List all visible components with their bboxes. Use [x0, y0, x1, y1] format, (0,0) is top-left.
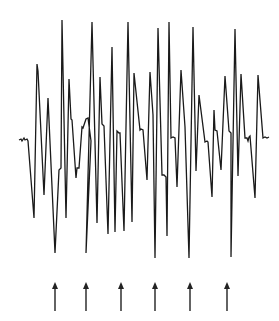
- marker-arrow-icon: [224, 282, 230, 311]
- arrow-head: [224, 282, 230, 289]
- waveform-trace: [19, 20, 269, 258]
- waveform-figure: [0, 0, 279, 321]
- arrow-head: [52, 282, 58, 289]
- marker-arrow-icon: [187, 282, 193, 311]
- arrow-head: [187, 282, 193, 289]
- marker-arrow-icon: [83, 282, 89, 311]
- marker-arrows: [52, 282, 230, 311]
- marker-arrow-icon: [152, 282, 158, 311]
- arrow-head: [83, 282, 89, 289]
- arrow-head: [118, 282, 124, 289]
- marker-arrow-icon: [118, 282, 124, 311]
- waveform-plot: [0, 0, 279, 321]
- marker-arrow-icon: [52, 282, 58, 311]
- arrow-head: [152, 282, 158, 289]
